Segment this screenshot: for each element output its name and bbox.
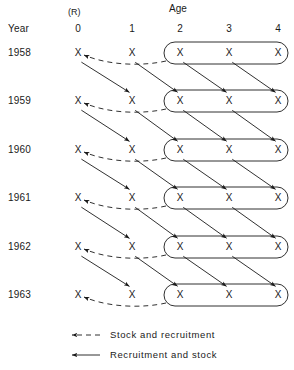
cell-1961-age-3: X	[226, 193, 233, 203]
arrow-solid-1958-age3-to-1959-age4	[232, 62, 275, 92]
arrow-dashed-stock-recruitment-1963	[84, 297, 166, 306]
year-label-1961: 1961	[8, 193, 31, 203]
cell-1958-age-4: X	[275, 48, 282, 58]
arrow-solid-1961-age0-to-1962-age1	[81, 207, 129, 238]
cell-1961-age-4: X	[275, 193, 282, 203]
arrow-solid-1962-age1-to-1963-age2	[135, 256, 177, 286]
cell-1963-age-1: X	[129, 290, 136, 300]
arrow-solid-1959-age0-to-1960-age1	[81, 110, 129, 141]
arrow-solid-1959-age1-to-1960-age2	[135, 110, 177, 141]
year-axis-title: Year	[8, 24, 29, 34]
age-column-header-0: 0	[75, 24, 81, 34]
recruitment-header: (R)	[68, 7, 81, 17]
arrow-dashed-stock-recruitment-1959	[84, 103, 166, 112]
arrow-solid-1958-age1-to-1959-age2	[135, 62, 177, 92]
cell-1962-age-4: X	[275, 242, 282, 252]
cell-1960-age-4: X	[275, 145, 282, 155]
year-label-1958: 1958	[8, 48, 31, 58]
stock-and-recruitment-arrows	[84, 55, 166, 306]
age-axis-title: Age	[169, 4, 187, 14]
legend-label-dashed: Stock and recruitment	[110, 330, 215, 340]
arrow-solid-1962-age3-to-1963-age4	[232, 256, 275, 286]
cell-1963-age-2: X	[177, 290, 184, 300]
arrow-solid-1962-age0-to-1963-age1	[81, 256, 129, 286]
cell-1962-age-1: X	[129, 242, 136, 252]
arrow-solid-1961-age3-to-1962-age4	[232, 207, 275, 238]
diagram-canvas	[0, 0, 294, 370]
arrow-solid-1959-age2-to-1960-age3	[183, 110, 226, 141]
arrow-solid-1960-age3-to-1961-age4	[232, 159, 275, 189]
arrow-solid-1958-age2-to-1959-age3	[183, 62, 226, 92]
arrow-solid-1962-age2-to-1963-age3	[183, 256, 226, 286]
cell-1959-age-4: X	[275, 96, 282, 106]
cell-1961-age-2: X	[177, 193, 184, 203]
arrow-solid-1960-age2-to-1961-age3	[183, 159, 226, 189]
cell-1959-age-3: X	[226, 96, 233, 106]
arrow-solid-1960-age1-to-1961-age2	[135, 159, 177, 189]
cell-1962-age-0: X	[75, 242, 82, 252]
cohort-diagram: Age (R) Year 01234 195819591960196119621…	[0, 0, 294, 370]
arrow-solid-1961-age2-to-1962-age3	[183, 207, 226, 238]
cell-1958-age-1: X	[129, 48, 136, 58]
arrow-dashed-stock-recruitment-1958	[84, 55, 166, 64]
cell-1958-age-3: X	[226, 48, 233, 58]
arrow-dashed-stock-recruitment-1960	[84, 152, 166, 161]
arrow-solid-1960-age0-to-1961-age1	[81, 159, 129, 189]
year-label-1963: 1963	[8, 290, 31, 300]
age-column-header-4: 4	[275, 24, 281, 34]
cell-1960-age-0: X	[75, 145, 82, 155]
cell-1963-age-3: X	[226, 290, 233, 300]
year-label-1959: 1959	[8, 96, 31, 106]
legend-label-solid: Recruitment and stock	[110, 350, 217, 360]
cell-1958-age-0: X	[75, 48, 82, 58]
age-group-boxes	[164, 42, 288, 306]
arrow-dashed-stock-recruitment-1961	[84, 200, 166, 209]
year-label-1960: 1960	[8, 145, 31, 155]
cell-1963-age-4: X	[275, 290, 282, 300]
age-column-header-2: 2	[177, 24, 183, 34]
cell-1961-age-1: X	[129, 193, 136, 203]
cell-1959-age-0: X	[75, 96, 82, 106]
arrow-solid-1961-age1-to-1962-age2	[135, 207, 177, 238]
arrow-solid-1958-age0-to-1959-age1	[81, 62, 129, 92]
cell-1961-age-0: X	[75, 193, 82, 203]
cell-1962-age-3: X	[226, 242, 233, 252]
cell-1959-age-2: X	[177, 96, 184, 106]
cell-1962-age-2: X	[177, 242, 184, 252]
cell-1960-age-2: X	[177, 145, 184, 155]
cell-1959-age-1: X	[129, 96, 136, 106]
legend-arrow-glyphs	[72, 335, 100, 355]
year-label-1962: 1962	[8, 242, 31, 252]
cell-1960-age-1: X	[129, 145, 136, 155]
age-column-header-3: 3	[226, 24, 232, 34]
age-column-header-1: 1	[129, 24, 135, 34]
cell-1960-age-3: X	[226, 145, 233, 155]
arrow-solid-1959-age3-to-1960-age4	[232, 110, 275, 141]
arrow-dashed-stock-recruitment-1962	[84, 249, 166, 258]
cell-1958-age-2: X	[177, 48, 184, 58]
cell-1963-age-0: X	[75, 290, 82, 300]
